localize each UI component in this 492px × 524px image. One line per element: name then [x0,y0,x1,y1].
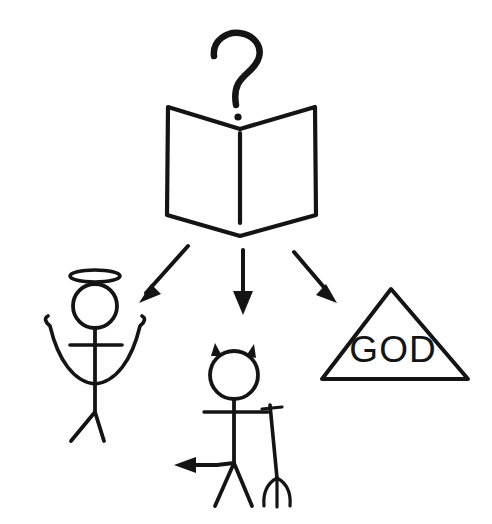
pitchfork-icon [262,405,290,507]
arrow-to-god [294,252,337,303]
god-triangle: GOD [322,289,468,379]
arrow-to-devil [233,250,253,315]
devil-tail [190,463,234,465]
devil-legs [215,463,252,506]
devil-head [210,351,258,399]
angel-legs [71,412,104,441]
drawing-canvas: GOD [0,0,492,524]
arrow-to-angel [139,246,188,303]
open-book-icon [167,107,316,236]
halo-icon [70,270,120,282]
question-mark-icon [214,33,260,121]
god-label: GOD [349,329,436,370]
angel-figure [46,270,145,441]
question-mark-dot [234,113,241,120]
angel-head [73,284,117,328]
scene-illustration: GOD [0,0,492,524]
devil-figure [174,343,290,507]
devil-tail-arrowhead [174,457,196,473]
